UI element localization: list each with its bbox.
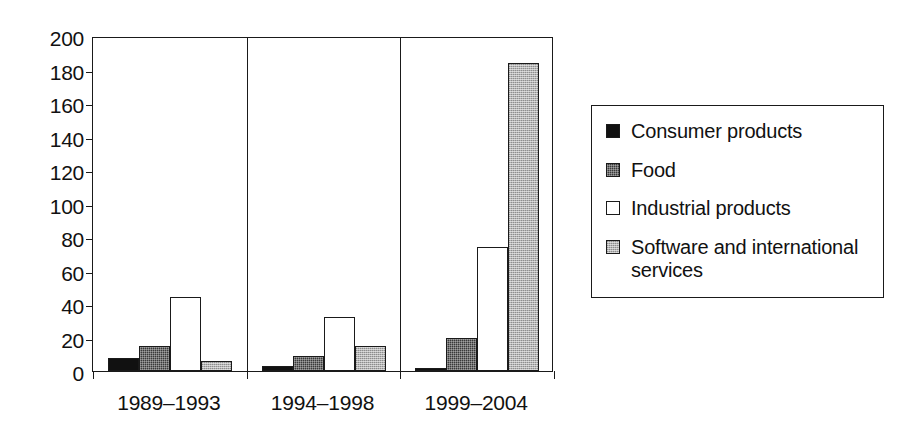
bar <box>262 366 293 371</box>
bar <box>170 297 201 371</box>
y-axis-tick-mark <box>86 239 93 240</box>
legend-swatch-icon <box>606 163 620 177</box>
bar <box>355 346 386 371</box>
y-axis-tick-mark <box>86 340 93 341</box>
legend-item[interactable]: Food <box>606 159 871 183</box>
legend-item-label: Consumer products <box>631 120 802 144</box>
bar-chart-figure: 200180160140120100806040200 Consumer pro… <box>0 0 907 438</box>
bar <box>477 247 508 371</box>
group-separator <box>247 38 248 371</box>
y-axis-tick-mark <box>86 273 93 274</box>
x-axis-tick-mark <box>247 371 248 379</box>
y-axis-tick-mark <box>86 306 93 307</box>
x-axis-tick-mark <box>400 371 401 379</box>
legend-swatch-icon <box>606 240 620 254</box>
legend-item-label: Software and international services <box>631 236 871 283</box>
y-axis-tick-label: 0 <box>73 363 93 384</box>
legend-swatch-icon <box>606 124 620 138</box>
bar <box>415 368 446 371</box>
x-axis-category-label: 1989–1993 <box>117 392 220 413</box>
bar <box>293 356 324 371</box>
y-axis-tick-mark <box>86 105 93 106</box>
bar <box>201 361 232 371</box>
y-axis-tick-mark <box>86 72 93 73</box>
x-axis-category-label: 1999–2004 <box>424 392 527 413</box>
legend-item[interactable]: Consumer products <box>606 120 871 144</box>
bar <box>324 317 355 371</box>
plot-area: 200180160140120100806040200 <box>92 37 553 372</box>
legend-item[interactable]: Industrial products <box>606 197 871 221</box>
x-axis-category-label: 1994–1998 <box>271 392 374 413</box>
x-axis-tick-mark <box>554 371 555 379</box>
bar <box>446 338 477 372</box>
chart-legend: Consumer productsFoodIndustrial products… <box>591 105 884 298</box>
y-axis-tick-label: 200 <box>50 28 93 49</box>
legend-item[interactable]: Software and international services <box>606 236 871 283</box>
y-axis-tick-mark <box>86 206 93 207</box>
legend-item-label: Food <box>631 159 676 183</box>
y-axis-tick-mark <box>86 172 93 173</box>
bar <box>108 358 139 371</box>
legend-item-label: Industrial products <box>631 197 791 221</box>
group-separator <box>400 38 401 371</box>
legend-swatch-icon <box>606 201 620 215</box>
bar <box>508 63 539 371</box>
x-axis-tick-mark <box>93 371 94 379</box>
bar <box>139 346 170 371</box>
y-axis-tick-mark <box>86 139 93 140</box>
